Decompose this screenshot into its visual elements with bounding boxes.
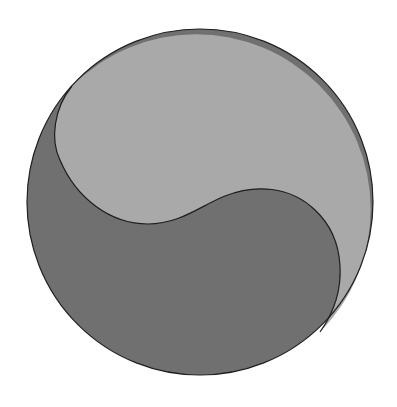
figure-stage [0,0,397,407]
yin-yang-figure [0,0,397,407]
